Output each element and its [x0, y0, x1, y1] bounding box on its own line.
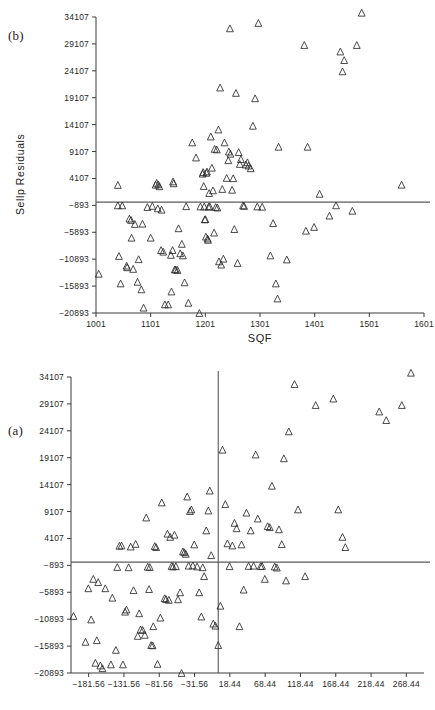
data-point-marker [88, 616, 95, 623]
data-point-marker [333, 202, 340, 209]
data-point-marker [128, 234, 135, 241]
y-tick-label: −10893 [34, 614, 64, 624]
data-point-marker [291, 381, 298, 388]
data-point-marker [254, 515, 261, 522]
y-tick-label: −893 [44, 560, 64, 570]
data-point-marker [285, 428, 292, 435]
y-tick-label: −5893 [39, 587, 64, 597]
data-point-marker [138, 286, 145, 293]
chart-panel-b: (b) Sellp Residuals SQF −20893−15893−108… [0, 0, 435, 355]
data-point-marker [222, 501, 229, 508]
data-point-marker [341, 57, 348, 64]
data-point-marker [339, 68, 346, 75]
data-point-marker [283, 256, 290, 263]
y-tick-label: −15893 [59, 281, 89, 291]
y-tick-label: −893 [69, 200, 89, 210]
data-point-marker [252, 451, 259, 458]
data-point-marker [316, 190, 323, 197]
data-point-marker [175, 225, 182, 232]
data-point-marker [342, 544, 349, 551]
data-point-marker [227, 25, 234, 32]
data-point-marker [158, 499, 165, 506]
data-point-marker [312, 402, 319, 409]
data-point-marker [231, 226, 238, 233]
y-tick-label: 9107 [44, 507, 64, 517]
data-point-marker [109, 594, 116, 601]
data-point-marker [225, 157, 232, 164]
data-point-marker [147, 234, 154, 241]
x-tick-label: 218.44 [357, 679, 384, 689]
y-tick-label: 19107 [64, 93, 89, 103]
data-point-marker [303, 227, 310, 234]
data-point-marker [398, 181, 405, 188]
panel-b-plot-area: −20893−15893−10893−5893−8934107910714107… [0, 0, 435, 355]
data-point-marker [304, 143, 311, 150]
data-point-marker [249, 122, 256, 129]
data-point-marker [230, 175, 237, 182]
data-point-marker [217, 84, 224, 91]
data-point-marker [274, 295, 281, 302]
data-point-marker [236, 161, 243, 168]
data-point-marker [376, 408, 383, 415]
data-point-marker [275, 143, 282, 150]
data-point-marker [283, 577, 290, 584]
data-point-marker [183, 203, 190, 210]
data-point-marker [154, 660, 161, 667]
data-point-marker [234, 260, 241, 267]
data-point-marker [150, 623, 157, 630]
data-point-marker [117, 280, 124, 287]
data-point-marker [311, 224, 318, 231]
data-point-marker [108, 661, 115, 668]
y-tick-label: 34107 [64, 12, 89, 22]
data-point-marker [143, 514, 150, 521]
data-point-marker [136, 610, 143, 617]
data-point-marker [252, 95, 259, 102]
data-point-marker [92, 659, 99, 666]
data-point-marker [335, 506, 342, 513]
data-point-marker [229, 186, 236, 193]
data-point-marker [237, 156, 244, 163]
data-point-marker [349, 207, 356, 214]
data-point-marker [337, 48, 344, 55]
data-point-marker [127, 543, 134, 550]
data-point-marker [114, 182, 121, 189]
data-point-marker [132, 540, 139, 547]
data-point-marker [201, 573, 208, 580]
data-point-marker [238, 541, 245, 548]
data-point-marker [208, 164, 215, 171]
y-tick-label: 4107 [69, 173, 89, 183]
data-point-marker [221, 139, 228, 146]
data-point-marker [301, 42, 308, 49]
y-tick-label: −20893 [34, 668, 64, 678]
data-point-marker [224, 540, 231, 547]
data-point-marker [93, 637, 100, 644]
data-point-marker [139, 220, 146, 227]
y-tick-label: 24107 [39, 426, 64, 436]
data-point-marker [125, 564, 132, 571]
y-tick-label: 29107 [64, 39, 89, 49]
data-point-marker [189, 139, 196, 146]
data-point-marker [358, 9, 365, 16]
x-tick-label: 1301 [250, 319, 270, 329]
x-tick-label: 1001 [86, 319, 106, 329]
data-point-marker [235, 149, 242, 156]
data-point-marker [130, 587, 137, 594]
x-tick-label: 18.44 [219, 679, 241, 689]
data-point-marker [270, 220, 277, 227]
data-point-marker [134, 278, 141, 285]
x-tick-label: −31.56 [181, 679, 209, 689]
data-point-marker [177, 589, 184, 596]
data-point-marker [207, 133, 214, 140]
x-tick-label: 68.44 [254, 679, 276, 689]
y-tick-label: −10893 [59, 254, 89, 264]
data-point-marker [102, 585, 109, 592]
y-tick-label: −15893 [34, 641, 64, 651]
x-tick-label: 1101 [141, 319, 160, 329]
data-point-marker [157, 614, 164, 621]
y-tick-label: 4107 [44, 533, 64, 543]
data-point-marker [120, 661, 127, 668]
data-point-marker [267, 252, 274, 259]
data-point-marker [233, 90, 240, 97]
x-tick-label: −181.56 [72, 679, 104, 689]
data-point-marker [130, 266, 137, 273]
